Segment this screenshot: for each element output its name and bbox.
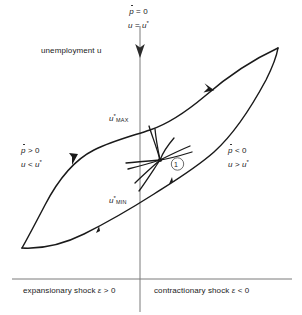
u-max-subscript: MAX: [116, 117, 129, 123]
u-relation: =: [133, 21, 142, 30]
left-quadrant-line-1: p > 0: [21, 146, 42, 156]
arrow-upper-right-icon: [203, 82, 215, 92]
left-u-star-symbol: u: [35, 160, 40, 169]
expansionary-shock-label: expansionary shock ε > 0: [23, 286, 115, 296]
left-u-relation: <: [26, 160, 35, 169]
node-label-one-text: 1: [174, 161, 178, 168]
u-star-asterisk: *: [147, 20, 149, 26]
left-quadrant-line-2: u < u*: [21, 156, 42, 170]
right-quadrant-line-1: p < 0: [228, 146, 249, 156]
u-max-u: u: [109, 114, 114, 123]
fan-ray-5: [160, 152, 192, 160]
hysteresis-diagram: p = 0 u = u* unemployment u u*MAX u*MIN …: [0, 0, 302, 315]
arrow-left-branch-icon: [69, 153, 78, 165]
unemployment-axis-label: unemployment u: [41, 46, 102, 56]
right-u-relation: >: [233, 160, 242, 169]
contractionary-shock-relation: < 0: [235, 286, 249, 295]
u-min-u: u: [109, 196, 114, 205]
right-p-dot-symbol: p: [228, 146, 233, 156]
u-star-symbol: u: [142, 21, 147, 30]
fan-node-dot: [158, 158, 162, 162]
unemployment-axis-label-text: unemployment u: [41, 46, 102, 55]
right-p-dot-relation: < 0: [233, 146, 247, 155]
right-u-star-symbol: u: [242, 160, 247, 169]
left-quadrant-condition-label: p > 0 u < u*: [21, 146, 42, 170]
contractionary-shock-label: contractionary shock ε < 0: [154, 286, 249, 296]
steady-state-line-2: u = u*: [128, 17, 149, 31]
arrow-lower-right-icon: [169, 177, 181, 184]
right-quadrant-condition-label: p < 0 u > u*: [228, 146, 249, 170]
u-min-subscript: MIN: [116, 199, 127, 205]
steady-state-condition-label: p = 0 u = u*: [128, 7, 149, 31]
steady-state-line-1: p = 0: [128, 7, 149, 17]
contractionary-shock-text: contractionary shock: [154, 286, 232, 295]
left-p-dot-symbol: p: [21, 146, 26, 156]
left-u-star-asterisk: *: [40, 159, 42, 165]
u-min-threshold-label: u*MIN: [109, 192, 127, 206]
expansionary-shock-relation: > 0: [101, 286, 115, 295]
right-quadrant-line-2: u > u*: [228, 156, 249, 170]
right-u-star-asterisk: *: [247, 159, 249, 165]
p-dot-relation: = 0: [134, 7, 148, 16]
expansionary-shock-text: expansionary shock: [23, 286, 98, 295]
p-dot-symbol: p: [129, 7, 134, 17]
left-p-dot-relation: > 0: [26, 146, 40, 155]
u-max-threshold-label: u*MAX: [109, 110, 129, 124]
node-label-one: 1: [174, 160, 178, 170]
